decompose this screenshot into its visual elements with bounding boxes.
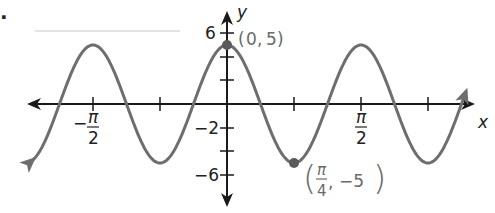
x-tick-label-pi-over-2: π 2 <box>355 107 367 148</box>
point-max-0-5 <box>222 40 232 50</box>
svg-text:5: 5 <box>266 29 277 49</box>
svg-text:2: 2 <box>356 128 367 148</box>
svg-text:2: 2 <box>88 128 99 148</box>
cosine-graph: . y x 6 −2 −6 − π 2 π 2 <box>0 0 495 213</box>
y-axis-label: y <box>236 2 248 22</box>
y-tick-label-6: 6 <box>205 23 216 43</box>
y-tick-label-neg6: −6 <box>194 165 219 185</box>
x-tick-label-neg-pi-over-2: − π 2 <box>73 107 99 148</box>
point-label-pi4-neg5: ( π 4 , −5 ) <box>303 158 386 200</box>
svg-text:): ) <box>373 158 386 198</box>
svg-text:π: π <box>356 107 367 127</box>
svg-text:): ) <box>277 29 284 49</box>
svg-text:−5: −5 <box>339 171 364 191</box>
svg-text:π: π <box>88 107 99 127</box>
point-label-0-5: ( 0 , 5 ) <box>238 29 284 49</box>
svg-text:π: π <box>317 161 327 179</box>
svg-text:4: 4 <box>317 182 327 200</box>
svg-text:(: ( <box>303 158 316 198</box>
x-axis-label: x <box>477 112 489 132</box>
y-tick-label-neg2: −2 <box>194 118 219 138</box>
item-bullet: . <box>0 0 8 24</box>
svg-text:,: , <box>328 172 333 192</box>
svg-text:0: 0 <box>246 29 257 49</box>
svg-text:(: ( <box>238 29 245 49</box>
svg-text:−: − <box>73 113 87 133</box>
svg-text:,: , <box>257 29 262 49</box>
point-min-pi4-neg5 <box>289 158 299 168</box>
